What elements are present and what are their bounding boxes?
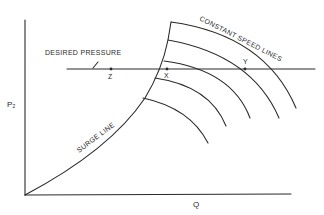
point-y-label: Y <box>243 58 248 65</box>
y-axis-label: P₂ <box>7 100 15 109</box>
point-x-marker <box>166 68 169 71</box>
constant-speed-line-3 <box>164 61 250 118</box>
constant-speed-lines-label: CONSTANT SPEED LINES <box>199 15 284 63</box>
compressor-map-diagram: P₂ Q Z X Y DESIRED PRESSURE CONSTANT SPE… <box>0 0 324 215</box>
point-x-label: X <box>164 72 169 79</box>
point-z-marker <box>110 68 113 71</box>
point-y-marker <box>244 68 247 71</box>
desired-pressure-label: DESIRED PRESSURE <box>45 49 121 56</box>
x-axis <box>25 194 291 195</box>
surge-line <box>25 22 171 195</box>
constant-speed-line-5 <box>143 98 208 143</box>
constant-speed-line-4 <box>155 78 226 126</box>
x-axis-label: Q <box>193 200 199 209</box>
point-z-label: Z <box>108 73 113 80</box>
desired-pressure-pointer <box>93 62 98 68</box>
